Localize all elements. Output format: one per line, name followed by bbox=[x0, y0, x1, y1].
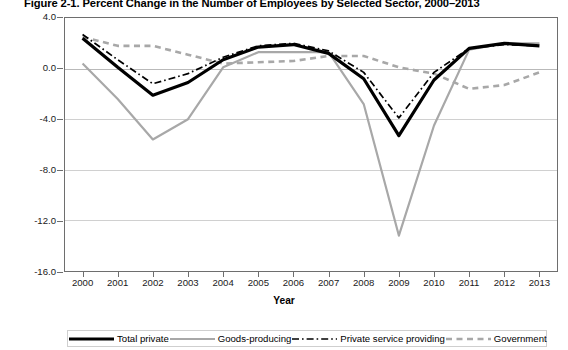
y-tick-mark bbox=[57, 68, 63, 69]
x-axis-tick-labels: 2000200120022003200420052006200720082009… bbox=[64, 277, 558, 293]
x-tick-label: 2010 bbox=[423, 277, 444, 288]
x-axis-title: Year bbox=[0, 295, 568, 306]
x-tick-label: 2013 bbox=[529, 277, 550, 288]
y-tick-label: 4.0 bbox=[0, 11, 56, 22]
y-tick-mark bbox=[57, 221, 63, 222]
x-tick-label: 2003 bbox=[177, 277, 198, 288]
x-tick-label: 2006 bbox=[283, 277, 304, 288]
y-tick-label: -4.0 bbox=[0, 113, 56, 124]
legend-item-private-service-providing[interactable]: Private service providing bbox=[291, 333, 445, 344]
legend-item-government[interactable]: Government bbox=[445, 333, 547, 344]
x-tick-mark bbox=[223, 272, 224, 277]
y-tick-mark bbox=[57, 17, 63, 18]
y-tick-label: -8.0 bbox=[0, 164, 56, 175]
x-tick-mark bbox=[118, 272, 119, 277]
y-tick-label: -12.0 bbox=[0, 215, 56, 226]
x-tick-label: 2011 bbox=[459, 277, 480, 288]
x-tick-label: 2008 bbox=[353, 277, 374, 288]
x-tick-label: 2005 bbox=[248, 277, 269, 288]
series-line-government bbox=[83, 37, 540, 89]
x-tick-label: 2001 bbox=[107, 277, 128, 288]
x-tick-label: 2007 bbox=[318, 277, 339, 288]
x-tick-mark bbox=[153, 272, 154, 277]
x-tick-mark bbox=[258, 272, 259, 277]
plot-area bbox=[64, 17, 558, 272]
x-tick-mark bbox=[293, 272, 294, 277]
x-tick-mark bbox=[504, 272, 505, 277]
chart-title: Figure 2-1. Percent Change in the Number… bbox=[24, 0, 568, 9]
x-tick-mark bbox=[188, 272, 189, 277]
legend-swatch-private-service-providing bbox=[291, 334, 338, 344]
series-lines bbox=[65, 18, 557, 271]
legend-label-goods-producing: Goods-producing bbox=[218, 333, 292, 344]
chart-legend: Total privateGoods-producingPrivate serv… bbox=[67, 330, 547, 347]
x-tick-mark bbox=[539, 272, 540, 277]
legend-item-goods-producing[interactable]: Goods-producing bbox=[169, 333, 292, 344]
x-tick-label: 2002 bbox=[142, 277, 163, 288]
x-tick-mark bbox=[329, 272, 330, 277]
x-tick-mark bbox=[399, 272, 400, 277]
series-line-goods-producing bbox=[83, 43, 540, 235]
x-tick-mark bbox=[434, 272, 435, 277]
legend-label-total-private: Total private bbox=[117, 333, 169, 344]
y-tick-mark bbox=[57, 119, 63, 120]
x-tick-mark bbox=[469, 272, 470, 277]
legend-label-private-service-providing: Private service providing bbox=[340, 333, 445, 344]
chart-container: Figure 2-1. Percent Change in the Number… bbox=[0, 0, 568, 350]
legend-item-total-private[interactable]: Total private bbox=[68, 333, 169, 344]
y-tick-mark bbox=[57, 170, 63, 171]
x-tick-mark bbox=[364, 272, 365, 277]
legend-label-government: Government bbox=[494, 333, 547, 344]
x-tick-label: 2012 bbox=[494, 277, 515, 288]
y-tick-mark bbox=[57, 272, 63, 273]
y-tick-label: -16.0 bbox=[0, 266, 56, 277]
x-tick-label: 2004 bbox=[212, 277, 233, 288]
x-tick-mark bbox=[83, 272, 84, 277]
x-tick-label: 2009 bbox=[388, 277, 409, 288]
y-tick-label: 0.0 bbox=[0, 62, 56, 73]
legend-swatch-goods-producing bbox=[169, 334, 216, 344]
x-tick-label: 2000 bbox=[72, 277, 93, 288]
legend-swatch-government bbox=[445, 334, 492, 344]
legend-swatch-total-private bbox=[68, 334, 115, 344]
